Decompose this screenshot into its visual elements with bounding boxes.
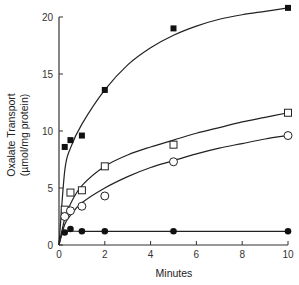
marker-filled-squares: [102, 87, 108, 93]
marker-open-squares: [67, 189, 74, 196]
x-axis-title: Minutes: [156, 267, 193, 279]
data-markers: [61, 5, 292, 236]
x-tick-label: 6: [194, 249, 200, 260]
marker-open-circles: [284, 132, 292, 140]
y-tick-label: 15: [42, 69, 54, 80]
y-tick-label: 20: [42, 12, 54, 23]
y-axis-title: Oxalate Transport (µmol/mg protein): [5, 93, 30, 177]
marker-open-circles: [170, 158, 178, 166]
y-tick-label: 0: [47, 240, 53, 251]
marker-filled-circles: [79, 228, 86, 235]
curve-filled-squares: [59, 8, 288, 245]
marker-open-squares: [285, 109, 292, 116]
marker-open-circles: [78, 202, 86, 210]
fitted-curves: [59, 8, 288, 245]
y-tick-label: 5: [47, 183, 53, 194]
marker-open-squares: [78, 187, 85, 194]
marker-filled-squares: [62, 144, 68, 150]
x-tick-label: 8: [239, 249, 245, 260]
marker-filled-squares: [67, 137, 73, 143]
marker-open-circles: [101, 192, 109, 200]
y-tick-label: 10: [42, 126, 54, 137]
line-chart: 024681005101520 Minutes Oxalate Transpor…: [0, 0, 299, 285]
x-tick-label: 2: [102, 249, 108, 260]
y-axis-title-line1: Oxalate Transport: [5, 93, 17, 177]
marker-open-circles: [66, 207, 74, 215]
marker-filled-squares: [285, 5, 291, 11]
marker-filled-circles: [285, 228, 292, 235]
marker-open-squares: [101, 163, 108, 170]
marker-filled-circles: [61, 229, 68, 236]
marker-filled-circles: [102, 228, 109, 235]
marker-filled-squares: [79, 133, 85, 139]
y-axis-title-line2: (µmol/mg protein): [18, 94, 30, 177]
x-tick-label: 4: [148, 249, 154, 260]
marker-filled-circles: [67, 226, 74, 233]
marker-open-squares: [170, 141, 177, 148]
x-tick-label: 10: [282, 249, 294, 260]
marker-filled-squares: [171, 25, 177, 31]
x-tick-label: 0: [56, 249, 62, 260]
curve-open-squares: [59, 113, 288, 245]
marker-filled-circles: [170, 228, 177, 235]
